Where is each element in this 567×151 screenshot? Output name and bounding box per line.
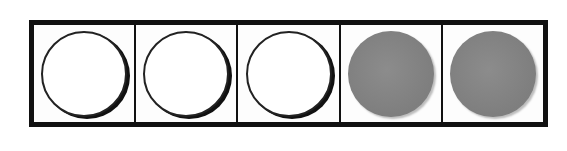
frame-cell-1 <box>34 25 136 122</box>
frame-cell-3 <box>238 25 340 122</box>
frame-cell-2 <box>136 25 238 122</box>
frame-cell-4 <box>341 25 443 122</box>
filled-circle-icon <box>450 31 536 117</box>
empty-circle-icon <box>143 31 229 117</box>
empty-circle-icon <box>246 31 332 117</box>
five-frame <box>29 20 548 127</box>
empty-circle-icon <box>41 31 127 117</box>
frame-cell-5 <box>443 25 543 122</box>
filled-circle-icon <box>348 31 434 117</box>
